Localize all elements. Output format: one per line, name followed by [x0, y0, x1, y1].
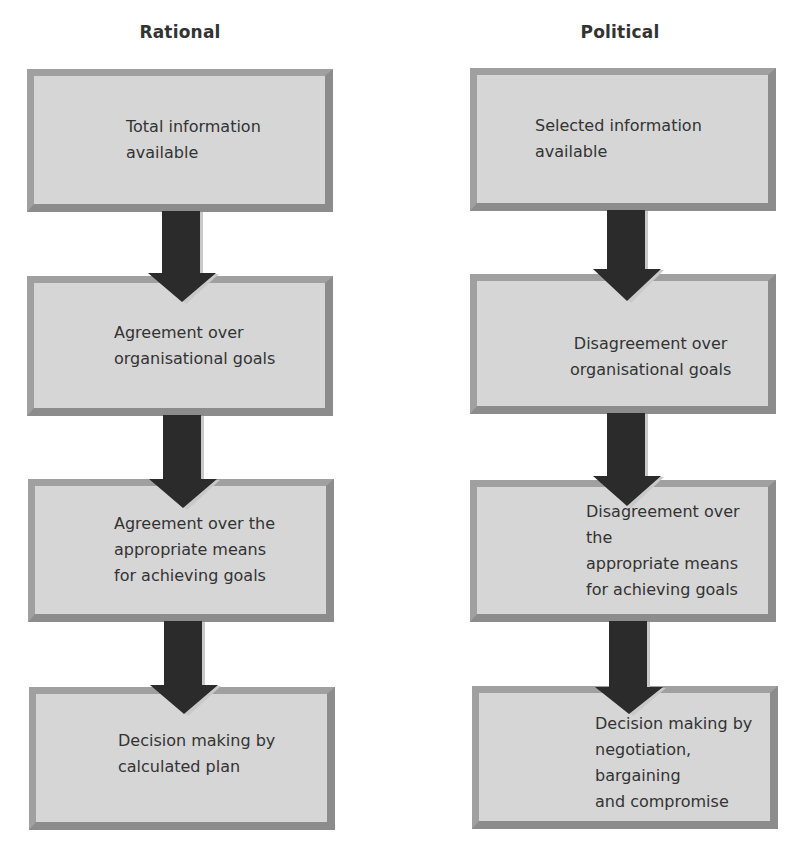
political-step-1-text: Selected information available: [535, 113, 702, 165]
political-step-4-text: Decision making by negotiation, bargaini…: [595, 711, 770, 815]
down-arrow-icon: [592, 413, 662, 509]
rational-step-1-box: Total information available: [27, 69, 333, 212]
political-step-1-box: Selected information available: [470, 68, 776, 211]
rational-step-3-text: Agreement over the appropriate means for…: [114, 511, 275, 589]
column-title-rational: Rational: [80, 22, 280, 42]
column-title-political: Political: [520, 22, 720, 42]
down-arrow-icon: [149, 621, 219, 717]
political-step-3-text: Disagreement over the appropriate means …: [586, 499, 768, 603]
down-arrow-icon: [148, 415, 218, 511]
down-arrow-icon: [147, 211, 217, 305]
rational-step-1-text: Total information available: [126, 114, 261, 166]
down-arrow-icon: [592, 210, 662, 304]
down-arrow-icon: [594, 621, 664, 717]
rational-step-2-text: Agreement over organisational goals: [114, 320, 275, 372]
rational-step-4-text: Decision making by calculated plan: [118, 728, 275, 780]
political-step-2-text: Disagreement over organisational goals: [570, 331, 731, 383]
